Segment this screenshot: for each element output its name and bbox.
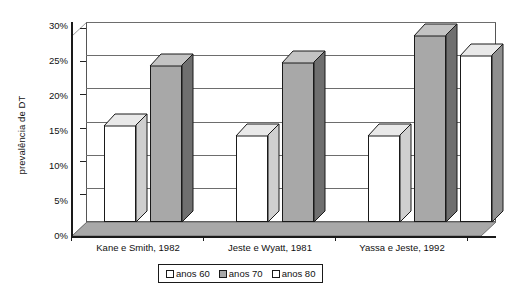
bar-side-face <box>182 54 195 222</box>
y-tick-5: 5% <box>34 196 68 205</box>
bar-side-face <box>314 51 327 222</box>
x-tick-0 <box>71 236 72 241</box>
gray-square-icon <box>219 270 227 278</box>
plot-area <box>72 22 496 236</box>
bar-kane-anos70 <box>150 65 182 222</box>
legend-label-anos-80: anos 80 <box>282 268 316 279</box>
bar-yassa-anos70 <box>414 35 446 222</box>
side-tick-15 <box>80 128 86 129</box>
x-axis-label-kane: Kane e Smith, 1982 <box>73 242 203 253</box>
plot-left-wall <box>72 22 87 236</box>
y-tick-20: 20% <box>34 91 68 100</box>
x-tick-3 <box>467 236 468 241</box>
bar-yassa-anos80 <box>460 55 492 222</box>
legend-item-anos-80: anos 80 <box>272 268 316 279</box>
x-tick-1 <box>203 236 204 241</box>
side-tick-10 <box>80 161 86 162</box>
side-tick-25 <box>80 61 86 62</box>
bar-side-face <box>492 44 505 222</box>
y-axis-title: prevalência de DT <box>16 0 27 60</box>
y-tick-0: 0% <box>34 231 68 240</box>
x-axis-label-yassa: Yassa e Jeste, 1992 <box>337 242 467 253</box>
side-tick-30 <box>80 28 86 29</box>
y-axis-tick-labels: 30% 25% 20% 15% 10% 5% 0% <box>34 0 68 305</box>
x-tick-2 <box>335 236 336 241</box>
bar-side-face <box>446 24 459 222</box>
y-axis-title-text: prevalência de DT <box>16 60 27 210</box>
bar-jeste-anos70 <box>282 62 314 222</box>
y-tick-15: 15% <box>34 126 68 135</box>
legend-label-anos-60: anos 60 <box>176 268 210 279</box>
bar-jeste-anos60 <box>236 135 268 222</box>
white-square-icon <box>272 270 280 278</box>
bar-side-face <box>268 124 281 222</box>
side-tick-5 <box>80 194 86 195</box>
white-square-icon <box>166 270 174 278</box>
bar-kane-anos60 <box>104 125 136 222</box>
y-tick-30: 30% <box>34 21 68 30</box>
y-tick-10: 10% <box>34 161 68 170</box>
gridline-30 <box>86 22 496 23</box>
bar-chart: prevalência de DT 30% 25% 20% 15% 10% 5%… <box>0 0 513 305</box>
bar-yassa-anos60 <box>368 135 400 222</box>
legend-label-anos-70: anos 70 <box>229 268 263 279</box>
legend-item-anos-60: anos 60 <box>166 268 210 279</box>
side-tick-20 <box>80 94 86 95</box>
chart-legend: anos 60 anos 70 anos 80 <box>158 264 323 283</box>
bar-side-face <box>136 114 149 222</box>
x-axis-label-jeste: Jeste e Wyatt, 1981 <box>205 242 335 253</box>
y-tick-25: 25% <box>34 56 68 65</box>
bar-side-face <box>400 124 413 222</box>
legend-item-anos-70: anos 70 <box>219 268 263 279</box>
y-axis-line <box>71 22 73 236</box>
x-axis-line <box>71 236 496 238</box>
